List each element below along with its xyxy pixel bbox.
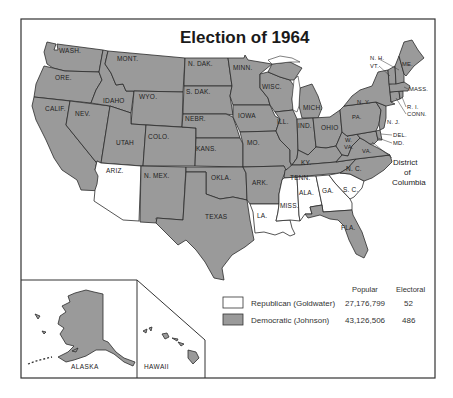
label-alaska: ALASKA <box>71 363 99 370</box>
label-ind: IND. <box>298 122 312 129</box>
label-nj: N. J. <box>387 119 400 125</box>
label-sc: S. C. <box>343 186 358 193</box>
legend-party-democratic: Democratic (Johnson) <box>251 316 330 325</box>
label-miss: MISS. <box>280 202 299 209</box>
label-ala: ALA. <box>299 189 314 196</box>
label-ohio: OHIO <box>321 124 338 131</box>
label-ark: ARK. <box>252 179 268 186</box>
label-hawaii: HAWAII <box>144 363 169 370</box>
label-md: MD. <box>393 140 404 146</box>
label-ky: KY. <box>301 159 311 166</box>
label-ndak: N. DAK. <box>188 60 213 67</box>
label-fla: FLA. <box>341 224 356 231</box>
label-dc-1: District <box>393 158 418 167</box>
label-idaho: IDAHO <box>103 97 125 104</box>
label-del: DEL. <box>393 132 407 138</box>
label-va: VA. <box>362 148 372 154</box>
label-utah: UTAH <box>116 139 134 146</box>
label-ore: ORE. <box>55 74 72 81</box>
label-texas: TEXAS <box>205 213 228 220</box>
legend-electoral-democratic: 486 <box>402 316 416 325</box>
legend-popular-democratic: 43,126,506 <box>345 316 386 325</box>
label-nev: NEV. <box>75 110 90 117</box>
legend-swatch-republican <box>223 297 243 308</box>
label-minn: MINN. <box>233 64 252 71</box>
legend-popular-republican: 27,176,799 <box>345 299 386 308</box>
legend-electoral-republican: 52 <box>404 299 413 308</box>
label-nmex: N. MEX. <box>144 172 170 179</box>
label-la: LA. <box>257 212 267 219</box>
label-pa: PA. <box>352 114 362 120</box>
label-mich: MICH. <box>303 104 322 111</box>
label-nc: N. C. <box>346 165 362 172</box>
legend-swatch-democratic <box>223 314 243 325</box>
label-ri: R. I. <box>407 104 419 110</box>
label-vt: VT. <box>370 63 379 69</box>
label-wisc: WISC. <box>262 83 282 90</box>
label-mont: MONT. <box>117 55 138 62</box>
legend-row-republican: Republican (Goldwater) 27,176,799 52 <box>223 297 413 308</box>
label-calif: CALIF. <box>45 105 66 112</box>
label-dc-2: of <box>404 168 411 177</box>
label-wva-1: W. <box>345 137 352 143</box>
label-ny: N. Y. <box>357 99 370 105</box>
label-ariz: ARIZ. <box>106 167 124 174</box>
label-kans: KANS. <box>196 145 217 152</box>
label-nh: N. H. <box>370 55 384 61</box>
label-ill: ILL. <box>277 118 289 125</box>
state-colorado <box>143 125 196 166</box>
label-iowa: IOWA <box>238 112 256 119</box>
label-colo: COLO. <box>148 133 169 140</box>
legend-header-electoral: Electoral <box>396 285 426 294</box>
label-sdak: S. DAK. <box>186 88 211 95</box>
label-conn: CONN. <box>407 111 427 117</box>
label-ga: GA. <box>322 187 334 194</box>
state-kansas <box>195 138 243 167</box>
map-title: Election of 1964 <box>180 28 310 47</box>
label-wash: WASH. <box>59 47 81 54</box>
label-mo: MO. <box>247 139 260 146</box>
label-dc-3: Columbia <box>392 178 426 187</box>
legend-header-popular: Popular <box>352 285 378 294</box>
state-oregon <box>34 66 102 103</box>
label-nebr: NEBR. <box>185 115 206 122</box>
label-me: ME. <box>402 61 413 67</box>
label-tenn: TENN. <box>290 174 311 181</box>
label-mass: MASS. <box>409 86 428 92</box>
label-wyo: WYO. <box>139 93 157 100</box>
election-map: Election of 1964 <box>0 0 453 398</box>
legend-party-republican: Republican (Goldwater) <box>251 299 335 308</box>
label-okla: OKLA. <box>211 174 231 181</box>
label-wva-2: VA. <box>344 144 354 150</box>
